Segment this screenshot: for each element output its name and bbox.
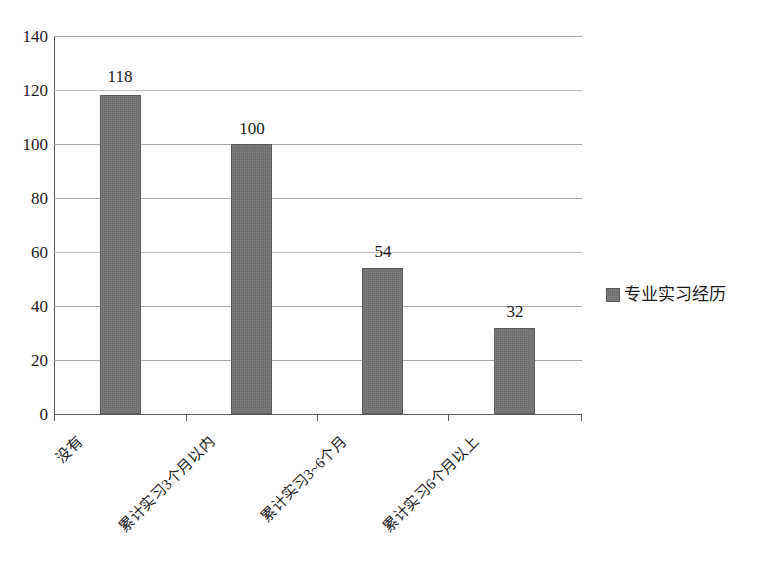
y-tick-label-120: 120 [4, 82, 48, 99]
y-tick-label-0: 0 [4, 406, 48, 423]
bar-value-2: 54 [375, 243, 392, 260]
x-category-label-0-text: 没有 [53, 434, 85, 466]
bar-0[interactable] [100, 95, 141, 414]
gridline-140 [54, 36, 582, 37]
x-category-label-3-text: 累计实习6个月以上 [381, 434, 482, 535]
legend: 专业实习经历 [606, 286, 726, 303]
y-tick-label-20: 20 [4, 352, 48, 369]
x-axis-tick-3 [448, 414, 449, 421]
bar-3[interactable] [494, 328, 535, 414]
y-tick-label-40: 40 [4, 298, 48, 315]
bar-chart: 140 120 100 80 60 40 20 0 118 100 54 32 … [0, 0, 758, 580]
x-axis-line [54, 414, 582, 415]
y-tick-label-100: 100 [4, 136, 48, 153]
bar-1[interactable] [231, 144, 272, 414]
legend-swatch-icon [606, 288, 620, 302]
bar-value-0: 118 [108, 68, 133, 85]
bar-value-3: 32 [507, 303, 524, 320]
plot-area [54, 36, 582, 414]
bar-2[interactable] [362, 268, 403, 414]
legend-label: 专业实习经历 [624, 286, 726, 303]
y-tick-label-80: 80 [4, 190, 48, 207]
bar-value-1: 100 [239, 120, 265, 137]
y-tick-label-140: 140 [4, 28, 48, 45]
x-axis-tick-4 [581, 414, 582, 421]
x-axis-tick-2 [317, 414, 318, 421]
x-category-label-2-text: 累计实习3~6个月 [259, 434, 350, 525]
x-axis-tick-0 [54, 414, 55, 421]
y-tick-label-60: 60 [4, 244, 48, 261]
x-category-label-1-text: 累计实习3个月以内 [117, 434, 218, 535]
gridline-120 [54, 90, 582, 91]
x-axis-tick-1 [186, 414, 187, 421]
